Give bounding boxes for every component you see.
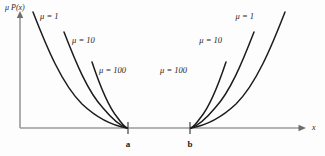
curve-label-right-mu-100: μ = 100 xyxy=(159,65,188,75)
x-tick-label-a: a xyxy=(126,139,131,149)
curve-label-left-mu-1: μ = 1 xyxy=(39,11,59,21)
plot-canvas: μ P(x) x a b μ = 1 μ = 10 μ = 100 μ = 10… xyxy=(0,0,325,156)
y-axis-label: μ P(x) xyxy=(4,3,25,12)
x-axis-label: x xyxy=(311,123,316,132)
curve-right-mu-100 xyxy=(191,62,226,128)
curve-label-right-mu-1: μ = 1 xyxy=(234,11,254,21)
curve-right-mu-10 xyxy=(191,32,254,128)
curve-label-left-mu-100: μ = 100 xyxy=(98,65,127,75)
curve-label-right-mu-10: μ = 10 xyxy=(198,35,223,45)
x-tick-label-b: b xyxy=(187,139,192,149)
curve-label-left-mu-10: μ = 10 xyxy=(71,35,96,45)
curve-left-mu-10 xyxy=(64,32,127,128)
penalty-function-figure: μ P(x) x a b μ = 1 μ = 10 μ = 100 μ = 10… xyxy=(0,0,325,156)
y-axis-arrowhead xyxy=(17,11,23,18)
x-axis-arrowhead xyxy=(299,125,307,131)
